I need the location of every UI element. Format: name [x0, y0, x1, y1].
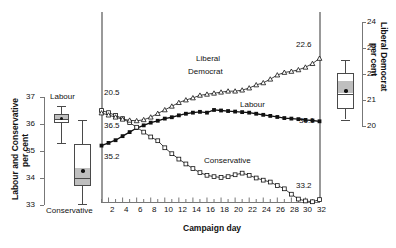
- boxplot-libdem-median: [337, 94, 354, 95]
- start-label-conservative: 36.5: [104, 122, 120, 130]
- series-annotation-labour: Labour: [240, 101, 265, 109]
- boxplot-libdem-whisker-cap-min: [341, 120, 350, 121]
- right-axis-tick-23: [362, 48, 366, 49]
- series-line-labour: [102, 110, 320, 146]
- end-label-conservative: 33.2: [296, 182, 312, 190]
- right-axis-label-20: 20: [367, 122, 376, 130]
- y-axis-right-title-line1: Liberal Democrat: [380, 22, 389, 91]
- y-axis-right-title-line2: per cent: [370, 43, 379, 76]
- boxplot-libdem-mean-point: [344, 89, 348, 93]
- right-axis-label-21: 21: [367, 96, 376, 104]
- right-axis-tick-24: [362, 22, 366, 23]
- chart-root: Labour and Conservative per cent 37 36 3…: [0, 0, 396, 248]
- series-annotation-conservative: Conservative: [204, 157, 251, 165]
- start-label-liberal-democrat: 20.5: [104, 89, 120, 97]
- right-axis-tick-20: [362, 126, 366, 127]
- series-layer: [0, 0, 396, 248]
- right-axis-label-24: 24: [367, 18, 376, 26]
- boxplot-libdem-whisker-cap-max: [341, 60, 350, 61]
- series-markers-liberal-democrat: [99, 56, 322, 123]
- series-annotation-liberal: Liberal: [196, 55, 220, 63]
- series-annotation-democrat: Democrat: [188, 68, 223, 76]
- right-axis-tick-22: [362, 74, 366, 75]
- start-label-labour: 35.2: [104, 153, 120, 161]
- right-axis-tick-21: [362, 100, 366, 101]
- end-label-liberal-democrat: 22.6: [296, 41, 312, 49]
- series-markers-labour: [100, 108, 322, 147]
- end-label-labour: 36.1: [299, 117, 315, 125]
